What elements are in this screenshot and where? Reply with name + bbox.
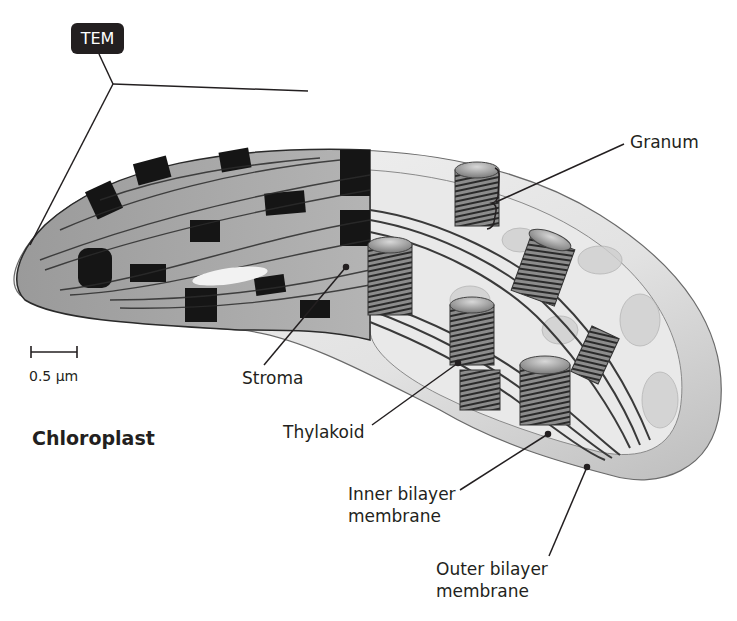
- tem-badge: TEM: [71, 23, 124, 54]
- diagram-title: Chloroplast: [32, 427, 155, 449]
- label-outer-membrane-line2: membrane: [436, 581, 529, 601]
- label-inner-membrane-line1: Inner bilayer: [348, 484, 456, 504]
- label-thylakoid: Thylakoid: [283, 422, 365, 442]
- label-inner-membrane-line2: membrane: [348, 506, 441, 526]
- label-outer-membrane-line1: Outer bilayer: [436, 559, 548, 579]
- label-stroma: Stroma: [242, 368, 303, 388]
- scale-bar: [31, 346, 77, 358]
- scale-bar-label: 0.5 µm: [29, 368, 78, 384]
- label-granum: Granum: [630, 132, 699, 152]
- chloroplast-illustration: [0, 0, 737, 621]
- outer-membrane-leader: [549, 465, 590, 557]
